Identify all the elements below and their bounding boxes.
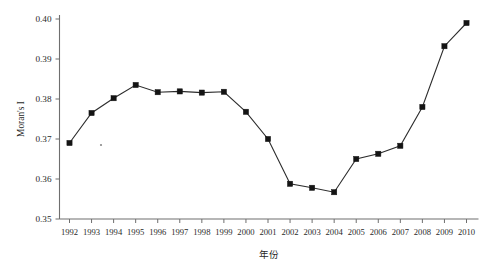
data-point-marker	[89, 110, 94, 115]
y-tick-label: 0.36	[35, 174, 51, 184]
data-point-marker	[111, 96, 116, 101]
y-axis-title: Moran's I	[16, 101, 26, 137]
scan-speck	[100, 144, 102, 146]
data-point-marker	[310, 185, 315, 190]
x-tick-label: 2000	[237, 227, 254, 237]
x-tick-label: 2009	[436, 227, 453, 237]
x-tick-label: 1995	[127, 227, 144, 237]
x-tick-label: 1992	[61, 227, 78, 237]
data-point-marker	[464, 20, 469, 25]
data-point-marker	[199, 90, 204, 95]
x-tick-label: 1997	[171, 227, 189, 237]
data-point-marker	[398, 143, 403, 148]
x-tick-label: 2007	[392, 227, 410, 237]
chart-canvas: 0.350.360.370.380.390.401992199319941995…	[0, 0, 501, 271]
data-point-marker	[376, 151, 381, 156]
data-point-marker	[67, 140, 72, 145]
moran-i-line-chart: 0.350.360.370.380.390.401992199319941995…	[0, 0, 501, 271]
x-tick-label: 1996	[149, 227, 167, 237]
x-tick-label: 1999	[215, 227, 232, 237]
y-tick-label: 0.40	[35, 14, 51, 24]
data-point-marker	[354, 156, 359, 161]
data-point-marker	[133, 82, 138, 87]
y-tick-label: 0.39	[35, 54, 51, 64]
x-tick-label: 1994	[105, 227, 123, 237]
x-tick-label: 2005	[348, 227, 365, 237]
x-tick-label: 1998	[193, 227, 210, 237]
y-tick-label: 0.38	[35, 94, 51, 104]
data-point-marker	[287, 181, 292, 186]
data-point-marker	[177, 89, 182, 94]
data-point-marker	[221, 89, 226, 94]
y-tick-label: 0.35	[35, 214, 51, 224]
x-axis-title: 年份	[259, 249, 279, 260]
x-tick-label: 2008	[414, 227, 431, 237]
data-point-marker	[243, 109, 248, 114]
data-point-marker	[332, 190, 337, 195]
y-tick-label: 0.37	[35, 134, 51, 144]
data-point-marker	[442, 44, 447, 49]
data-point-marker	[155, 90, 160, 95]
x-tick-label: 2003	[304, 227, 321, 237]
series-line-morans-i	[70, 23, 467, 192]
x-tick-label: 2004	[326, 227, 344, 237]
x-tick-label: 2010	[458, 227, 475, 237]
x-tick-label: 1993	[83, 227, 100, 237]
x-tick-label: 2006	[370, 227, 388, 237]
x-tick-label: 2001	[259, 227, 276, 237]
data-point-marker	[265, 136, 270, 141]
data-point-marker	[420, 104, 425, 109]
x-tick-label: 2002	[281, 227, 298, 237]
